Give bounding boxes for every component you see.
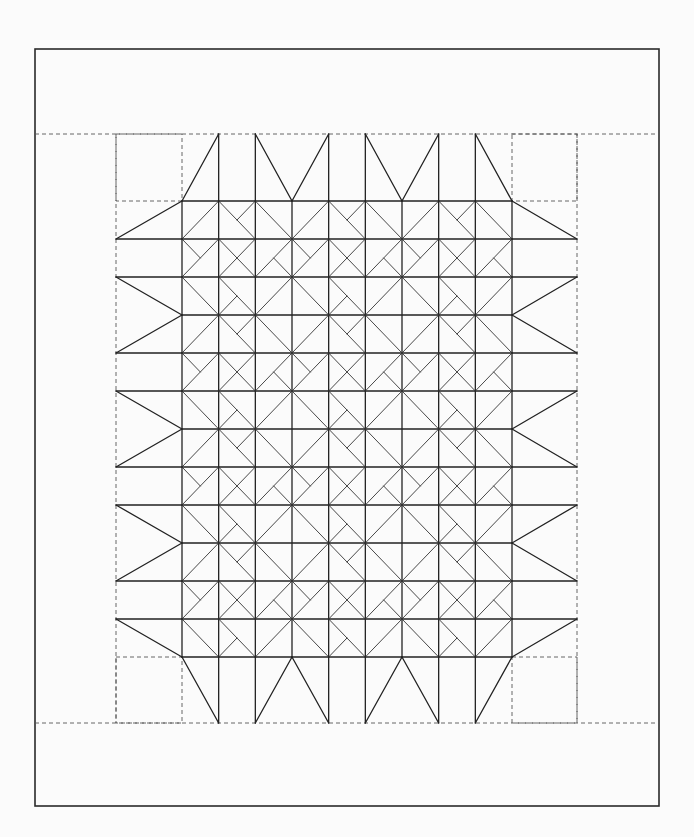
diagonal-up — [402, 543, 439, 581]
half-diagonal — [292, 467, 310, 486]
half-diagonal — [494, 372, 512, 391]
star-point-diagonal — [365, 657, 402, 723]
half-diagonal — [402, 239, 420, 258]
diagonal-down — [402, 619, 439, 657]
bottom-star-points — [182, 657, 512, 723]
diagonal-up — [255, 277, 292, 315]
diagonal-down — [255, 315, 292, 353]
half-diagonal — [292, 581, 310, 600]
half-diagonal — [274, 486, 292, 505]
diagonal-down — [402, 505, 439, 543]
star-point-diagonal — [116, 543, 182, 581]
star-point-diagonal — [116, 391, 182, 429]
star-point-diagonal — [116, 505, 182, 543]
half-diagonal — [347, 429, 365, 448]
diagonal-up — [255, 391, 292, 429]
half-diagonal — [384, 600, 402, 619]
quilt-pattern-diagram — [0, 0, 694, 837]
half-diagonal — [494, 258, 512, 277]
half-diagonal — [347, 543, 365, 562]
half-diagonal — [347, 315, 365, 334]
half-diagonal — [237, 543, 255, 562]
half-diagonal — [292, 239, 310, 258]
diagonal-down — [475, 429, 512, 467]
diagonal-down — [255, 201, 292, 239]
diagonal-up — [475, 505, 512, 543]
diagonal-up — [365, 619, 402, 657]
diagonal-down — [292, 277, 329, 315]
diagonal-down — [365, 315, 402, 353]
diagonal-up — [182, 429, 219, 467]
diagonal-down — [182, 277, 219, 315]
star-point-diagonal — [512, 505, 577, 543]
diagonal-down — [365, 543, 402, 581]
corner-box-bottom-left — [116, 657, 182, 723]
half-diagonal — [402, 581, 420, 600]
half-diagonal — [219, 638, 237, 657]
star-point-diagonal — [182, 657, 219, 723]
diagonal-down — [182, 505, 219, 543]
diagonal-down — [402, 277, 439, 315]
star-point-diagonal — [116, 201, 182, 239]
half-diagonal — [457, 315, 475, 334]
half-diagonal — [292, 353, 310, 372]
star-point-diagonal — [292, 134, 329, 201]
star-point-diagonal — [116, 619, 182, 657]
frame-rect — [35, 49, 659, 806]
star-point-diagonal — [475, 657, 512, 723]
outer-frame — [35, 49, 659, 806]
half-diagonal — [329, 296, 347, 315]
diagonal-up — [365, 505, 402, 543]
half-diagonal — [494, 600, 512, 619]
half-diagonal — [182, 239, 200, 258]
diagonal-up — [402, 429, 439, 467]
diagonal-up — [475, 277, 512, 315]
diagonal-down — [475, 315, 512, 353]
star-point-diagonal — [292, 657, 329, 723]
diagonal-up — [365, 277, 402, 315]
corner-box-top-right — [512, 134, 577, 201]
star-point-diagonal — [116, 277, 182, 315]
diagonal-down — [292, 505, 329, 543]
star-point-diagonal — [512, 619, 577, 657]
diagonal-up — [365, 391, 402, 429]
diagonal-up — [255, 619, 292, 657]
half-diagonal — [237, 429, 255, 448]
star-point-diagonal — [255, 134, 292, 201]
diagonal-up — [292, 201, 329, 239]
diagonal-down — [402, 391, 439, 429]
corner-box-top-left — [116, 134, 182, 201]
diagonal-down — [255, 543, 292, 581]
diagonal-up — [475, 619, 512, 657]
half-diagonal — [494, 486, 512, 505]
half-diagonal — [347, 201, 365, 220]
diagonal-up — [182, 315, 219, 353]
diagonal-up — [182, 201, 219, 239]
half-diagonal — [274, 258, 292, 277]
diagonal-down — [365, 201, 402, 239]
half-diagonal — [402, 353, 420, 372]
half-diagonal — [182, 353, 200, 372]
half-diagonal — [329, 410, 347, 429]
half-diagonal — [457, 543, 475, 562]
half-diagonal — [439, 410, 457, 429]
diagonal-down — [292, 619, 329, 657]
star-point-diagonal — [512, 277, 577, 315]
star-point-diagonal — [402, 134, 439, 201]
half-diagonal — [237, 315, 255, 334]
half-diagonal — [439, 524, 457, 543]
star-point-diagonal — [255, 657, 292, 723]
half-diagonal — [402, 467, 420, 486]
diagonal-down — [292, 391, 329, 429]
star-point-diagonal — [512, 201, 577, 239]
diagonal-up — [292, 543, 329, 581]
star-point-diagonal — [365, 134, 402, 201]
half-diagonal — [219, 410, 237, 429]
diagonal-up — [182, 543, 219, 581]
half-diagonal — [274, 372, 292, 391]
star-point-diagonal — [512, 429, 577, 467]
half-diagonal — [457, 429, 475, 448]
diagonal-up — [292, 429, 329, 467]
diagonal-up — [292, 315, 329, 353]
diagonal-down — [475, 543, 512, 581]
